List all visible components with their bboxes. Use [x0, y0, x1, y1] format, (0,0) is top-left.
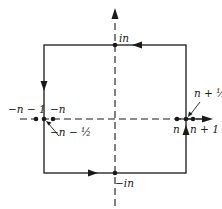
point-neg-in	[113, 171, 118, 176]
point-n-plus-1	[191, 117, 196, 122]
point-neg-n-minus-1	[34, 117, 39, 122]
point-neg-n	[51, 117, 56, 122]
label-n: n	[173, 123, 180, 135]
real-axis-arrow-icon	[202, 116, 213, 123]
contour-arrow-down-icon	[41, 81, 48, 91]
contour-arrow-right-icon	[88, 170, 98, 177]
contour-arrow-left-icon	[132, 42, 142, 49]
label-neg-n-minus-1: −n − 1	[8, 103, 46, 115]
point-n-plus-half	[184, 117, 189, 122]
contour-arrow-up-icon	[183, 125, 190, 135]
label-in: in	[119, 32, 129, 44]
point-in	[113, 43, 118, 48]
point-n	[175, 117, 180, 122]
label-n-plus-half: n + ½	[194, 87, 222, 99]
imaginary-axis-arrow-icon	[112, 8, 119, 19]
label-n-plus-1: n + 1	[190, 123, 219, 135]
contour-diagram: in −in −n − 1 −n −n − ½ n n + 1 n + ½	[0, 0, 222, 209]
label-neg-n: −n	[50, 103, 66, 115]
point-neg-n-minus-half	[42, 117, 47, 122]
label-neg-n-minus-half: −n − ½	[50, 126, 91, 138]
pointer-neg-n-minus-half-icon	[46, 121, 52, 126]
label-neg-in: −in	[115, 177, 134, 189]
